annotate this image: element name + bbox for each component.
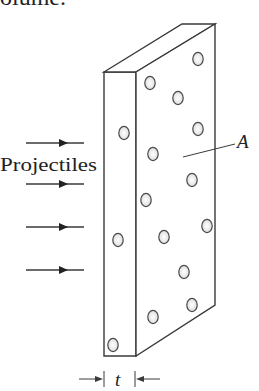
slab-side-face <box>136 24 215 356</box>
particle-circle-icon <box>148 147 158 160</box>
particle-circle-icon <box>173 91 183 104</box>
projectile-arrow-icon <box>26 180 84 188</box>
particle-circle-icon <box>108 338 118 351</box>
particle-circle-icon <box>193 122 203 135</box>
projectile-arrow-icon <box>26 266 84 274</box>
particle-circle-icon <box>148 310 158 323</box>
dimension-arrowhead-right-icon <box>95 376 103 382</box>
slab-front-face <box>104 72 136 356</box>
particle-circle-icon <box>179 265 189 278</box>
thickness-label: t <box>115 369 121 390</box>
particle-circle-icon <box>193 52 203 65</box>
projectile-arrow-icon <box>26 223 84 231</box>
particle-circle-icon <box>145 76 155 89</box>
particle-circle-icon <box>113 233 123 246</box>
projectiles-label: Projectiles <box>0 154 97 175</box>
particle-circle-icon <box>202 219 212 232</box>
particle-circle-icon <box>159 230 169 243</box>
particle-circle-icon <box>187 173 197 186</box>
particle-circle-icon <box>141 193 151 206</box>
area-label: A <box>235 131 249 152</box>
projectile-arrow-icon <box>26 139 84 147</box>
dimension-arrowhead-left-icon <box>136 376 144 382</box>
slab-projectile-diagram: A Projectiles t <box>0 0 259 391</box>
particle-circle-icon <box>187 298 197 311</box>
slab <box>104 24 215 356</box>
particle-circle-icon <box>119 126 129 139</box>
